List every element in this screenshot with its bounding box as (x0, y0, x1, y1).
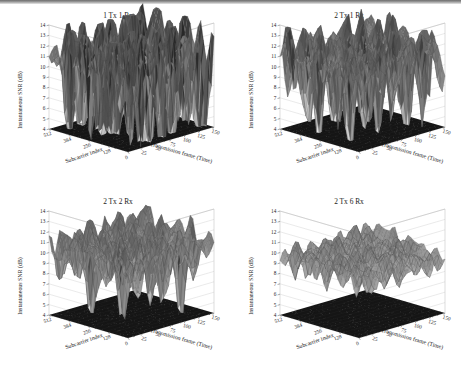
x-tick-label: 0 (355, 340, 360, 347)
x-tick-label: 128 (333, 333, 343, 341)
x-tick-label: 128 (333, 147, 343, 155)
z-axis-label: Instantaneous SNR (dB) (17, 257, 24, 315)
z-tick-label: 14 (271, 22, 277, 28)
z-tick-label: 9 (274, 74, 277, 80)
panel-title: 2 Tx 2 Rx (103, 197, 133, 206)
z-tick-label: 6 (274, 291, 277, 297)
z-tick-label: 8 (274, 84, 277, 90)
y-tick-label: 150 (211, 314, 221, 322)
surface-chart-svg: 1 Tx 1 Rx4567891011121314Instantaneous S… (0, 0, 230, 186)
z-tick-label: 14 (271, 208, 277, 214)
z-tick-label: 5 (43, 116, 46, 122)
surface-chart-svg: 2 Tx 1 Rx4567891011121314Instantaneous S… (231, 0, 461, 186)
z-tick-label: 8 (274, 270, 277, 276)
y-tick-label: 25 (372, 149, 379, 156)
z-axis: 4567891011121314Instantaneous SNR (dB) (17, 22, 49, 132)
y-tick-label: 25 (141, 335, 148, 342)
z-tick-label: 14 (40, 208, 46, 214)
surface-plot-panel-1tx1rx: 1 Tx 1 Rx4567891011121314Instantaneous S… (0, 0, 230, 186)
figure-four-panel-snr-surfaces: 1 Tx 1 Rx4567891011121314Instantaneous S… (0, 0, 461, 372)
z-axis: 4567891011121314Instantaneous SNR (dB) (248, 208, 280, 318)
surface-chart-svg: 2 Tx 6 Rx4567891011121314Instantaneous S… (231, 186, 461, 372)
y-axis-label: Transmission frame (Time) (149, 141, 213, 165)
panel-title: 2 Tx 6 Rx (334, 197, 364, 206)
surface-plot-panel-2tx2rx: 2 Tx 2 Rx4567891011121314Instantaneous S… (0, 186, 230, 372)
x-tick-label: 128 (102, 147, 112, 155)
z-axis-label: Instantaneous SNR (dB) (248, 71, 255, 129)
z-tick-label: 9 (274, 260, 277, 266)
x-tick-label: 384 (62, 136, 72, 144)
z-tick-label: 8 (43, 84, 46, 90)
z-tick-label: 10 (271, 250, 277, 256)
z-tick-label: 14 (40, 22, 46, 28)
snr-mesh-surface (280, 223, 445, 298)
z-tick-label: 10 (271, 64, 277, 70)
floor-contour-plane (49, 290, 214, 338)
y-tick-label: 100 (413, 322, 423, 330)
z-tick-label: 11 (271, 239, 276, 245)
z-tick-label: 13 (271, 32, 277, 38)
surface-chart-svg: 2 Tx 2 Rx4567891011121314Instantaneous S… (0, 186, 230, 372)
surface-plot-panel-2tx1rx: 2 Tx 1 Rx4567891011121314Instantaneous S… (231, 0, 461, 186)
z-tick-label: 5 (274, 116, 277, 122)
y-tick-label: 100 (182, 136, 192, 144)
z-tick-label: 9 (43, 260, 46, 266)
z-axis-label: Instantaneous SNR (dB) (248, 257, 255, 315)
z-tick-label: 13 (40, 218, 46, 224)
z-tick-label: 7 (274, 95, 277, 101)
z-tick-label: 5 (274, 302, 277, 308)
y-tick-label: 100 (182, 322, 192, 330)
z-tick-label: 10 (40, 64, 46, 70)
x-tick-label: 0 (355, 154, 360, 161)
y-tick-label: 125 (197, 132, 207, 140)
z-tick-label: 13 (40, 32, 46, 38)
y-tick-label: 125 (428, 132, 438, 140)
x-tick-label: 384 (62, 322, 72, 330)
y-tick-label: 25 (372, 335, 379, 342)
x-tick-label: 256 (313, 327, 323, 335)
x-tick-label: 256 (82, 327, 92, 335)
z-tick-label: 5 (43, 302, 46, 308)
z-tick-label: 10 (40, 250, 46, 256)
y-tick-label: 150 (442, 128, 452, 136)
y-tick-label: 125 (428, 318, 438, 326)
x-tick-label: 256 (82, 141, 92, 149)
z-tick-label: 11 (271, 53, 276, 59)
y-tick-label: 25 (141, 149, 148, 156)
z-tick-label: 12 (40, 43, 46, 49)
z-tick-label: 6 (43, 105, 46, 111)
x-tick-label: 512 (43, 316, 53, 324)
z-tick-label: 9 (43, 74, 46, 80)
z-tick-label: 13 (271, 218, 277, 224)
z-axis-label: Instantaneous SNR (dB) (17, 71, 24, 129)
z-tick-label: 11 (40, 53, 45, 59)
surface-plot-panel-2tx6rx: 2 Tx 6 Rx4567891011121314Instantaneous S… (231, 186, 461, 372)
x-tick-label: 512 (274, 130, 284, 138)
z-tick-label: 12 (40, 229, 46, 235)
x-tick-label: 0 (124, 154, 129, 161)
x-tick-label: 384 (293, 322, 303, 330)
x-tick-label: 0 (124, 340, 129, 347)
z-tick-label: 7 (43, 281, 46, 287)
x-tick-label: 512 (274, 316, 284, 324)
z-tick-label: 6 (274, 105, 277, 111)
z-tick-label: 11 (40, 239, 45, 245)
x-tick-label: 512 (43, 130, 53, 138)
z-tick-label: 7 (43, 95, 46, 101)
z-axis: 4567891011121314Instantaneous SNR (dB) (248, 22, 280, 132)
y-axis-label: Transmission frame (Time) (380, 327, 444, 351)
z-axis: 4567891011121314Instantaneous SNR (dB) (17, 208, 49, 318)
y-tick-label: 125 (197, 318, 207, 326)
x-tick-label: 384 (293, 136, 303, 144)
z-tick-label: 6 (43, 291, 46, 297)
z-tick-label: 12 (271, 43, 277, 49)
y-axis-label: Transmission frame (Time) (149, 327, 213, 351)
floor-contour-plane (280, 290, 445, 338)
y-axis-label: Transmission frame (Time) (380, 141, 444, 165)
x-tick-label: 256 (313, 141, 323, 149)
z-tick-label: 7 (274, 281, 277, 287)
y-tick-label: 150 (211, 128, 221, 136)
z-tick-label: 12 (271, 229, 277, 235)
z-tick-label: 8 (43, 270, 46, 276)
x-tick-label: 128 (102, 333, 112, 341)
